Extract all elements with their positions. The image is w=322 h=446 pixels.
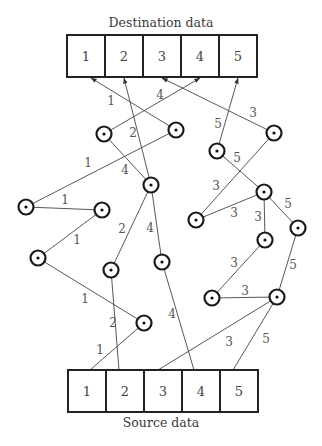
destination-cell-label: 3 bbox=[158, 49, 166, 64]
node-center-dot-icon bbox=[296, 226, 299, 229]
edge-weight-label: 1 bbox=[96, 343, 104, 357]
node-center-dot-icon bbox=[263, 238, 266, 241]
edge-weight-label: 2 bbox=[129, 126, 137, 140]
edge-weight-label: 5 bbox=[262, 332, 270, 346]
edge-weight-label: 5 bbox=[289, 258, 297, 272]
node-B bbox=[169, 123, 184, 138]
source-cell-label: 3 bbox=[159, 384, 167, 399]
edge-weight-label: 5 bbox=[284, 197, 292, 211]
node-center-dot-icon bbox=[272, 131, 275, 134]
edge-weight-label: 3 bbox=[249, 106, 257, 120]
edge-weight-label: 4 bbox=[168, 307, 176, 321]
edge-weight-label: 1 bbox=[84, 156, 92, 170]
node-center-dot-icon bbox=[262, 190, 265, 193]
node-center-dot-icon bbox=[109, 268, 112, 271]
node-center-dot-icon bbox=[174, 128, 177, 131]
edge-weight-label: 3 bbox=[230, 256, 238, 270]
edge-src5-Q bbox=[233, 297, 277, 370]
source-cell-label: 4 bbox=[197, 384, 205, 399]
nodes-layer bbox=[19, 123, 306, 331]
edge-C-A bbox=[104, 134, 151, 185]
edge-P-O bbox=[212, 240, 265, 298]
source-cell-label: 1 bbox=[83, 384, 91, 399]
node-N bbox=[291, 221, 306, 236]
node-E bbox=[95, 203, 110, 218]
node-H bbox=[155, 255, 170, 270]
edge-weight-label: 3 bbox=[241, 284, 249, 298]
node-M bbox=[189, 213, 204, 228]
edge-B-dst1 bbox=[91, 78, 176, 130]
node-center-dot-icon bbox=[210, 296, 213, 299]
edge-weight-label: 1 bbox=[73, 233, 81, 247]
edge-A-dst4 bbox=[104, 78, 200, 134]
node-G bbox=[104, 263, 119, 278]
node-center-dot-icon bbox=[142, 321, 145, 324]
node-center-dot-icon bbox=[215, 149, 218, 152]
destination-cell-label: 2 bbox=[120, 49, 128, 64]
source-cell-label: 5 bbox=[235, 384, 243, 399]
edge-weight-label: 2 bbox=[109, 316, 117, 330]
node-center-dot-icon bbox=[194, 218, 197, 221]
node-center-dot-icon bbox=[102, 132, 105, 135]
edge-weight-label: 4 bbox=[121, 163, 129, 177]
node-P bbox=[205, 291, 220, 306]
edge-weight-label: 4 bbox=[156, 88, 164, 102]
source-data-array: 12345 bbox=[68, 370, 258, 412]
edge-src4-H bbox=[162, 262, 194, 370]
node-Q bbox=[270, 290, 285, 305]
destination-cell-label: 5 bbox=[234, 49, 242, 64]
node-center-dot-icon bbox=[160, 260, 163, 263]
node-L bbox=[257, 185, 272, 200]
node-A bbox=[97, 127, 112, 142]
node-center-dot-icon bbox=[149, 183, 152, 186]
node-O bbox=[258, 233, 273, 248]
edge-weight-label: 2 bbox=[118, 222, 126, 236]
node-center-dot-icon bbox=[24, 205, 27, 208]
edge-I-F bbox=[38, 258, 144, 323]
edge-E-D bbox=[26, 207, 102, 210]
edge-weight-label: 3 bbox=[254, 210, 262, 224]
node-D bbox=[19, 200, 34, 215]
edge-weight-label: 5 bbox=[214, 117, 222, 131]
node-J bbox=[210, 144, 225, 159]
node-center-dot-icon bbox=[36, 256, 39, 259]
edge-F-E bbox=[38, 210, 102, 258]
source-cell-label: 2 bbox=[121, 384, 129, 399]
edge-G-C bbox=[111, 185, 151, 270]
destination-cell-label: 4 bbox=[196, 49, 204, 64]
edge-weight-label: 3 bbox=[212, 179, 220, 193]
edge-weight-label: 4 bbox=[146, 221, 154, 235]
edge-weight-label: 1 bbox=[81, 292, 89, 306]
node-center-dot-icon bbox=[100, 208, 103, 211]
edge-weight-label: 1 bbox=[107, 94, 115, 108]
edge-weight-label: 3 bbox=[230, 206, 238, 220]
destination-data-array: 12345 bbox=[67, 35, 257, 77]
edge-weight-label: 3 bbox=[225, 335, 233, 349]
edge-weight-label: 5 bbox=[233, 151, 241, 165]
destination-cell-label: 1 bbox=[82, 49, 90, 64]
node-F bbox=[31, 251, 46, 266]
node-C bbox=[144, 178, 159, 193]
flow-diagram: 1111112224444333333355555 12345 12345 bbox=[0, 0, 322, 446]
edges-layer bbox=[26, 78, 298, 370]
node-K bbox=[267, 126, 282, 141]
edge-J-dst5 bbox=[217, 78, 238, 151]
node-center-dot-icon bbox=[275, 295, 278, 298]
node-I bbox=[137, 316, 152, 331]
edge-weight-label: 1 bbox=[61, 193, 69, 207]
